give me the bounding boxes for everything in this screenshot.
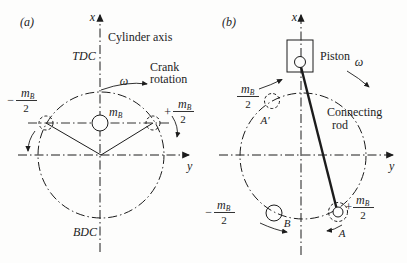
panel-a-y-axis-label: y [186, 159, 193, 173]
panel-a-left-half-mass-label: − mB 2 [7, 86, 37, 114]
figure-svg: (a) x y ω Cylinder axis TDC BDC Crank ro… [0, 0, 407, 263]
engine-balance-figure: (a) x y ω Cylinder axis TDC BDC Crank ro… [0, 0, 407, 263]
panel-b-crank-half-mass-label: + mB 2 [345, 193, 374, 221]
panel-b-connecting-rod-label-line1: Connecting [327, 105, 382, 119]
panel-b-lower-left-half-mass-label: − mB 2 [205, 198, 235, 226]
panel-b-lower-left-mass-numerator: mB [217, 198, 231, 213]
panel-b-piston-label: Piston [320, 49, 350, 63]
panel-b-label: (b) [222, 15, 236, 29]
panel-a-right-mass-sign: + [164, 105, 171, 119]
panel-b-y-axis-label: y [388, 159, 395, 173]
panel-a-crank-rotation-label-line2: rotation [150, 72, 187, 86]
panel-a-omega-symbol: ω [120, 74, 128, 88]
panel-b-x-axis-label: x [291, 10, 298, 24]
panel-a-left-mass-direction-arrow [28, 131, 35, 151]
panel-b-upper-left-mass-denominator: 2 [245, 98, 251, 110]
panel-b-lower-left-mass-circle [266, 205, 282, 221]
panel-a-center-mass-label: mB [109, 105, 123, 120]
panel-a-left-mass-sign: − [7, 93, 14, 107]
panel-b-upper-left-mass-numerator: mB [241, 82, 255, 97]
panel-a-tdc-label: TDC [72, 49, 96, 63]
panel-a-right-mass-denominator: 2 [180, 113, 186, 125]
panel-a-left-mass-denominator: 2 [23, 102, 29, 114]
panel-a-x-axis-label: x [89, 10, 96, 24]
panel-a-left-mass-numerator: mB [21, 86, 35, 101]
panel-b-point-a-prime-label: A′ [259, 114, 270, 126]
panel-a-right-half-mass-label: + mB 2 [164, 97, 194, 125]
panel-b-point-b-label: B [284, 217, 291, 229]
panel-b-lower-left-mass-denominator: 2 [221, 214, 227, 226]
panel-b-lower-left-mass-sign: − [205, 205, 212, 219]
panel-b-crank-mass-sign: + [345, 200, 352, 214]
panel-b: (b) x y Piston ω Connecting rod A′ B A [205, 10, 395, 255]
panel-a: (a) x y ω Cylinder axis TDC BDC Crank ro… [7, 10, 194, 252]
panel-a-label: (a) [20, 15, 34, 29]
panel-a-center-mass-circle [92, 115, 108, 131]
panel-b-crank-mass-numerator: mB [356, 193, 370, 208]
panel-a-cylinder-axis-label: Cylinder axis [108, 30, 173, 44]
panel-b-upper-left-half-mass-label: mB 2 [237, 82, 259, 110]
panel-b-piston-pin-circle [295, 57, 306, 68]
panel-b-point-a-label: A [338, 227, 346, 239]
panel-a-right-mass-numerator: mB [178, 97, 192, 112]
panel-a-right-radius-line [101, 123, 153, 155]
panel-b-connecting-rod-label-line2: rod [332, 118, 348, 132]
panel-a-bdc-label: BDC [73, 225, 98, 239]
panel-b-omega-symbol: ω [355, 55, 363, 69]
panel-b-crank-pin-circle [333, 207, 343, 217]
panel-a-left-radius-line [46, 123, 101, 155]
panel-a-right-mass-direction-arrow [172, 116, 177, 137]
panel-b-crank-rotation-arrow [347, 71, 369, 87]
panel-b-crank-mass-denominator: 2 [360, 209, 366, 221]
panel-b-upper-left-mass-direction-arrow [259, 80, 282, 90]
panel-b-connecting-rod [300, 63, 337, 210]
